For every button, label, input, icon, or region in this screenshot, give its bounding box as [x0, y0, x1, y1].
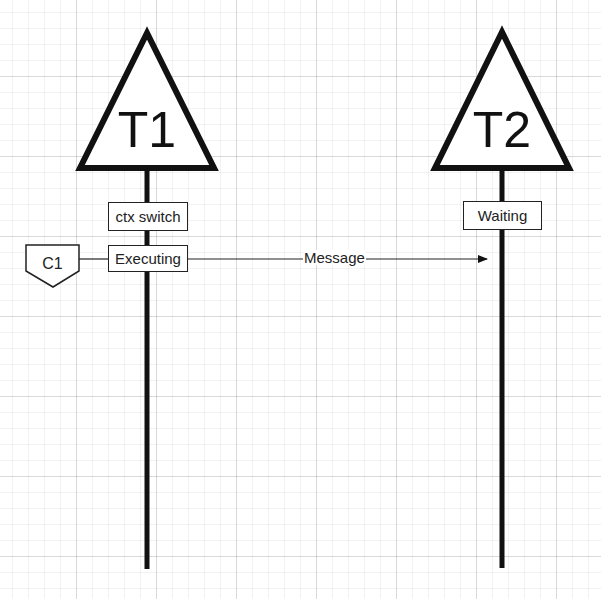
t1-label: T1 [97, 105, 197, 155]
t2-label: T2 [452, 105, 552, 155]
t2-state-waiting[interactable]: Waiting [463, 201, 542, 230]
t1-state-executing[interactable]: Executing [108, 245, 188, 272]
c1-label: C1 [26, 255, 79, 273]
t1-state-ctx-switch[interactable]: ctx switch [108, 202, 188, 231]
message-label: Message [303, 250, 366, 265]
diagram-canvas: T1 T2 ctx switch Executing Waiting C1 Me… [0, 0, 601, 599]
diagram-shapes [0, 0, 601, 599]
